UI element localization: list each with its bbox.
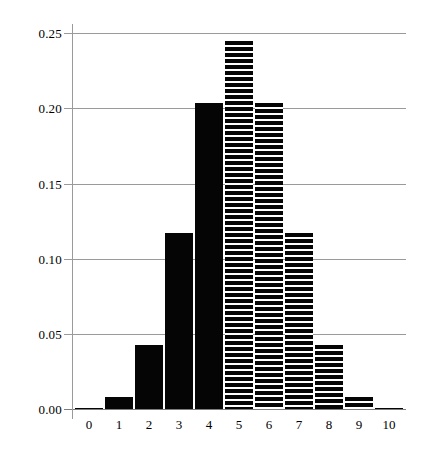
x-tick-label-0: 0 <box>74 418 104 432</box>
bar-4 <box>195 103 223 409</box>
bar-7 <box>285 233 313 409</box>
y-tick-label-0.15: 0.15 <box>2 178 62 191</box>
y-tick-label-0.00: 0.00 <box>2 403 62 416</box>
y-tick-label-0.05: 0.05 <box>2 328 62 341</box>
bar-3 <box>165 233 193 409</box>
x-tick-label-4: 4 <box>194 418 224 432</box>
gridline-0.00 <box>64 409 406 410</box>
y-tick-label-0.20: 0.20 <box>2 102 62 115</box>
bar-10 <box>375 408 403 409</box>
x-tick-label-7: 7 <box>284 418 314 432</box>
gridline-0.25 <box>64 33 406 34</box>
y-tick-label-0.10: 0.10 <box>2 253 62 266</box>
bar-1 <box>105 397 133 409</box>
x-tick-label-9: 9 <box>344 418 374 432</box>
x-tick-label-10: 10 <box>374 418 404 432</box>
x-tick-label-5: 5 <box>224 418 254 432</box>
bar-8 <box>315 345 343 409</box>
plot-area: 0.25 0.20 0.15 0.10 0.05 0.00 0 1 2 3 4 … <box>0 0 423 457</box>
bar-2 <box>135 345 163 409</box>
x-tick-label-1: 1 <box>104 418 134 432</box>
x-tick-label-8: 8 <box>314 418 344 432</box>
bar-0 <box>75 408 103 409</box>
x-tick-label-2: 2 <box>134 418 164 432</box>
bar-6 <box>255 103 283 409</box>
bar-5 <box>225 41 253 409</box>
bar-9 <box>345 397 373 409</box>
x-tick-label-3: 3 <box>164 418 194 432</box>
y-axis-line <box>72 24 73 419</box>
x-tick-label-6: 6 <box>254 418 284 432</box>
y-tick-label-0.25: 0.25 <box>2 27 62 40</box>
histogram-chart: 0.25 0.20 0.15 0.10 0.05 0.00 0 1 2 3 4 … <box>0 0 423 457</box>
